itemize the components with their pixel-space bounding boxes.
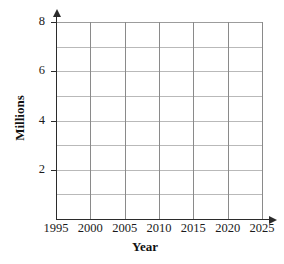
y-axis-tick-mark <box>51 22 56 23</box>
chart-figure: 2468 1995200020052010201520202025 Year M… <box>0 0 284 264</box>
gridline-vertical <box>193 22 194 219</box>
gridline-vertical <box>159 22 160 219</box>
x-axis-title: Year <box>0 239 284 255</box>
gridline-vertical <box>228 22 229 219</box>
y-axis-title: Millions <box>12 63 28 173</box>
plot-area <box>56 22 262 219</box>
x-axis-tick-label: 2025 <box>242 222 282 235</box>
gridline-vertical <box>90 22 91 219</box>
gridline-vertical <box>262 22 263 219</box>
gridline-vertical <box>125 22 126 219</box>
y-axis-tick-mark <box>51 71 56 72</box>
y-axis-tick-mark <box>51 121 56 122</box>
y-axis-arrow-icon <box>53 9 61 17</box>
y-axis-tick-label: 8 <box>19 15 45 28</box>
y-axis-tick-mark <box>51 170 56 171</box>
y-axis-line <box>56 16 57 219</box>
